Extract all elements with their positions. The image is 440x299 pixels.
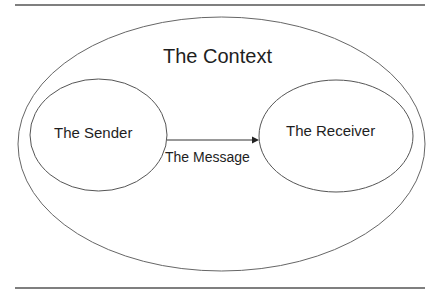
receiver-label: The Receiver (286, 122, 375, 139)
sender-label: The Sender (54, 124, 132, 141)
message-label: The Message (165, 149, 250, 165)
arrow-head-icon (252, 137, 259, 144)
context-label: The Context (163, 45, 272, 68)
